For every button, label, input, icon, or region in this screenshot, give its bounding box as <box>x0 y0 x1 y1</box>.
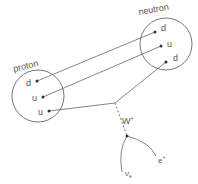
proton-quark-1: d <box>26 78 31 88</box>
quark-dots <box>36 31 168 138</box>
w-boson-label: W+ <box>122 115 134 126</box>
proton-quark-2: u <box>32 93 37 103</box>
d-to-vertex-line <box>115 62 166 103</box>
beta-decay-diagram: proton neutron d u u d u d W+ νe e+ <box>0 0 198 184</box>
positron-line <box>127 136 156 156</box>
neutron-label: neutron <box>138 2 170 17</box>
neutron-quark-3: d <box>173 53 178 63</box>
proton-quark-3: u <box>38 107 43 117</box>
positron-label: e+ <box>158 154 165 165</box>
u-to-vertex-line <box>49 103 115 111</box>
neutrino-line <box>121 136 127 172</box>
proton-label: proton <box>12 58 39 74</box>
neutrino-label: νe <box>125 169 132 179</box>
neutron-quark-1: d <box>161 23 166 33</box>
neutron-quark-2: u <box>167 39 172 49</box>
